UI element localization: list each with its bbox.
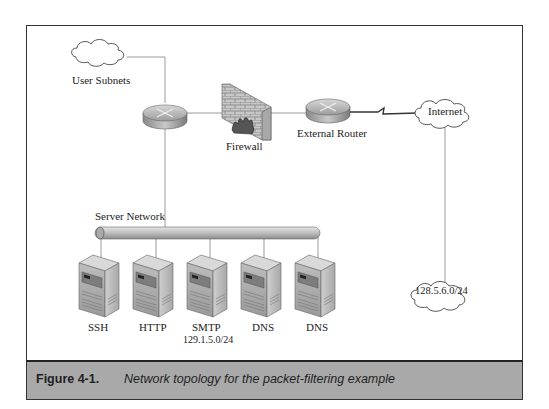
figure-caption-text: Network topology for the packet-filterin… [124,372,395,386]
internal-router-icon [143,105,187,129]
server-icon-http [133,255,173,317]
server-icon-dns-2 [295,255,335,317]
figure-caption: Figure 4-1. Network topology for the pac… [26,360,523,400]
remote-network-label: 128.5.6.0/24 [415,285,468,296]
server-subnet-label: 129.1.5.0/24 [183,334,233,345]
firewall-label: Firewall [226,140,263,152]
external-router-icon [306,99,350,123]
server-label-ssh: SSH [88,321,108,333]
server-network-bus-icon [95,227,320,239]
connection-lines [101,57,445,285]
server-label-dns-1: DNS [252,321,274,333]
server-icon-smtp [187,255,227,317]
figure-number: Figure 4-1. [36,372,99,386]
server-icon-dns-1 [241,255,281,317]
server-label-dns-2: DNS [306,321,328,333]
server-label-http: HTTP [139,321,167,333]
external-router-label: External Router [297,127,367,139]
server-label-smtp: SMTP [192,321,221,333]
user-subnets-label: User Subnets [72,74,130,86]
serial-link-icon [348,108,418,114]
server-network-label: Server Network [95,210,165,222]
user-subnets-cloud-icon [72,40,124,67]
network-diagram [0,0,549,409]
server-icon-ssh [79,255,119,317]
internet-label: Internet [428,105,462,117]
firewall-icon [222,84,271,140]
